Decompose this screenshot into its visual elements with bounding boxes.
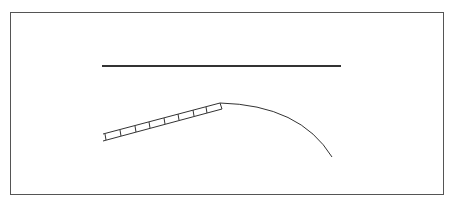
diagram-canvas: [0, 0, 456, 203]
diagram-svg: [0, 0, 456, 203]
curve-segment: [220, 103, 332, 157]
ladder-segment: [103, 103, 222, 141]
